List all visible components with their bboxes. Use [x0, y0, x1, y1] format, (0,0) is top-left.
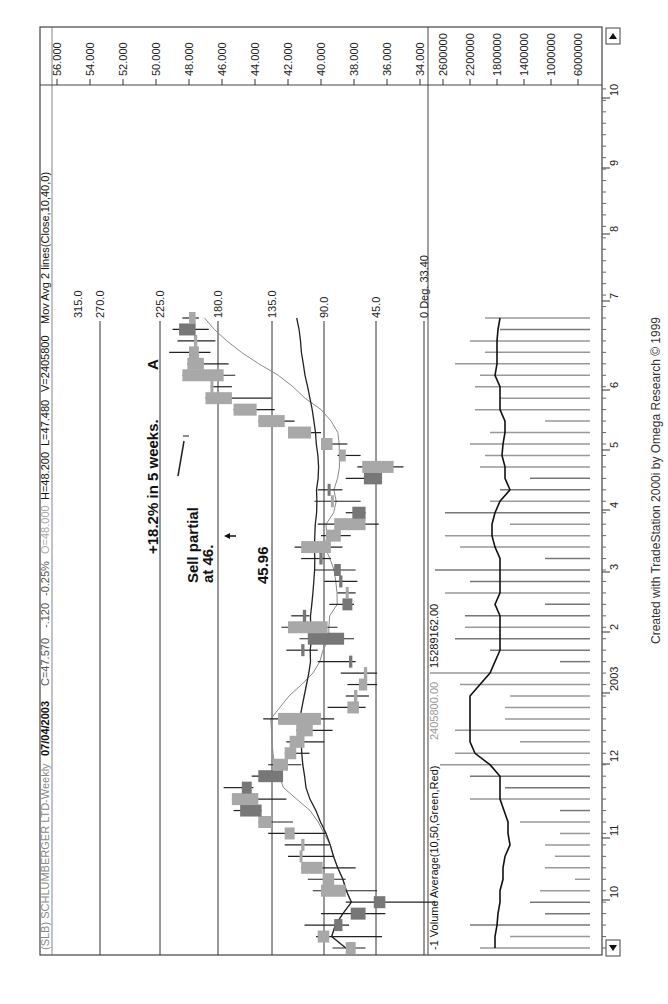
angle-line-label: 135.0	[266, 290, 278, 318]
date-tick-label: 5	[608, 442, 620, 448]
high-label: H=48.200	[39, 452, 51, 500]
scroll-left-button[interactable]	[606, 940, 620, 956]
marker-a: A	[144, 359, 161, 370]
date-tick-label: 4	[608, 502, 620, 508]
volume-tick-label: 2600000	[437, 33, 449, 76]
sell-annotation-line2: at 46.	[199, 545, 216, 583]
candle	[258, 816, 271, 828]
date-tick-label: 10	[608, 886, 620, 898]
change-pct-label: -0.25%	[39, 561, 51, 596]
price-tick-label: 56.000	[51, 42, 63, 76]
candle	[342, 598, 352, 610]
candle	[301, 644, 304, 656]
date-tick-label: 11	[608, 825, 620, 836]
price-tick-label: 34.000	[414, 42, 426, 76]
candle	[242, 782, 252, 794]
price-tick-label: 36.000	[381, 42, 393, 76]
volume-avg-value: 2405800.00	[428, 682, 440, 740]
price-tick-label: 46.000	[216, 42, 228, 76]
candle	[364, 472, 382, 484]
candle	[258, 415, 284, 427]
candle	[194, 335, 197, 347]
date-tick-label: 8	[608, 226, 620, 232]
price-tick-label: 50.000	[150, 42, 162, 76]
low-label: L=47.480	[39, 400, 51, 446]
candle	[301, 862, 322, 874]
candle	[234, 404, 257, 416]
angle-line-label: 0 Deg. 33.40	[418, 255, 430, 318]
candle	[187, 358, 204, 370]
chart-header: (SLB) SCHLUMBERGER LTD-Weekly 07/04/2003…	[39, 172, 51, 950]
price-tick-label: 44.000	[249, 42, 261, 76]
date-tick-label: 12	[608, 750, 620, 762]
angle-line-label: 90.0	[318, 297, 330, 318]
chart-window: (SLB) SCHLUMBERGER LTD-Weekly 07/04/2003…	[0, 0, 668, 1004]
volume-tick-label: 1400000	[518, 33, 530, 76]
candle	[301, 541, 331, 553]
price-tick-label: 52.000	[117, 42, 129, 76]
candle	[301, 839, 304, 851]
candle	[354, 690, 357, 702]
angle-line-label: 180.0	[212, 290, 224, 318]
candle	[326, 530, 341, 542]
candle	[374, 896, 386, 908]
scroll-right-button[interactable]	[606, 28, 620, 44]
date-tick-label: 6	[608, 382, 620, 388]
price-tick-label: 42.000	[282, 42, 294, 76]
candle	[182, 369, 223, 381]
candle	[323, 873, 335, 885]
candle	[346, 942, 356, 954]
date-tick-label: 9	[608, 160, 620, 166]
candle	[346, 587, 349, 599]
candle	[288, 621, 328, 633]
date-tick-label: 2003	[608, 667, 620, 691]
date-tick-label: 2	[608, 624, 620, 630]
candle	[308, 633, 344, 645]
candle	[339, 449, 346, 461]
volume-tick-label: 2200000	[464, 33, 476, 76]
candle	[296, 724, 313, 736]
angle-line-label: 225.0	[154, 290, 166, 318]
candle	[189, 346, 199, 358]
candle	[290, 736, 305, 748]
candle	[339, 575, 342, 587]
date-tick-label: 10	[608, 84, 620, 96]
date-label: 07/04/2003	[39, 701, 51, 756]
candle	[206, 392, 232, 404]
candle	[303, 610, 306, 622]
volume-tick-label: 6000000	[572, 33, 584, 76]
candle	[349, 656, 352, 668]
candle	[362, 461, 393, 473]
candle	[210, 381, 213, 393]
price-tick-label: 38.000	[348, 42, 360, 76]
volume-tick-label: 1000000	[545, 33, 557, 76]
price-tick-label: 40.000	[315, 42, 327, 76]
candle	[258, 770, 283, 782]
price-tick-label: 54.000	[84, 42, 96, 76]
candle	[285, 827, 295, 839]
date-tick-label: 7	[608, 293, 620, 299]
credit-text: Created with TradeStation 2000i by Omega…	[649, 317, 663, 644]
candle	[359, 679, 367, 691]
candle	[240, 805, 261, 817]
candle	[288, 427, 311, 439]
close-label: C=47.570	[39, 638, 51, 686]
candle	[300, 850, 303, 862]
change-label: -.120	[39, 603, 51, 628]
candle	[179, 323, 196, 335]
volume-indicator-label: -1 Volume Average(10,50,Green,Red)	[428, 766, 440, 950]
candle	[285, 747, 297, 759]
candle	[189, 312, 196, 324]
volume-max-value: 15289162.00	[428, 604, 440, 668]
candle	[334, 919, 342, 931]
candle	[319, 553, 322, 565]
volume-tick-label: 1800000	[491, 33, 503, 76]
volume-value-label: V=2405800	[39, 335, 51, 392]
candle	[278, 713, 321, 725]
candle	[328, 484, 331, 496]
candle	[364, 667, 367, 679]
candle	[334, 518, 365, 530]
price-note: 45.96	[254, 546, 271, 584]
open-label: O=48.000	[39, 505, 51, 554]
candle	[331, 495, 334, 507]
